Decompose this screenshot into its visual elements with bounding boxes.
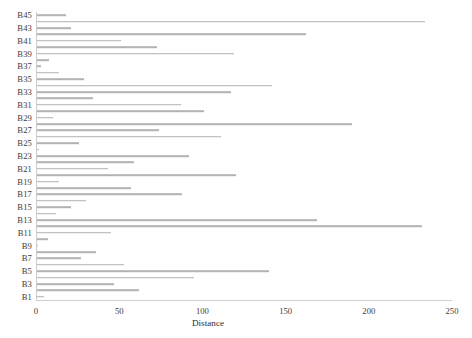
x-tick-label-0: 0 — [34, 306, 38, 316]
y-tick-label-b13: B13 — [17, 215, 32, 225]
bar-b17 — [36, 194, 182, 196]
bar-b13 — [36, 219, 317, 221]
y-tick-label-b9: B9 — [22, 241, 32, 251]
bar-b19 — [36, 181, 59, 183]
bar-b27 — [36, 130, 159, 132]
bar-b10 — [36, 238, 48, 240]
y-tick-label-b17: B17 — [17, 189, 32, 199]
x-tick-label-50: 50 — [115, 306, 124, 316]
bar-b23 — [36, 155, 189, 157]
y-tick-label-b25: B25 — [17, 138, 32, 148]
bar-b36 — [36, 72, 59, 74]
bar-b44 — [36, 21, 425, 23]
bar-b3 — [36, 283, 114, 285]
bar-b28 — [36, 123, 352, 125]
x-tick-label-150: 150 — [279, 306, 292, 316]
y-axis-line — [36, 12, 37, 301]
y-tick-label-b33: B33 — [17, 87, 32, 97]
bar-b25 — [36, 142, 79, 144]
bar-b14 — [36, 213, 56, 215]
plot-area — [36, 12, 452, 300]
bar-b4 — [36, 277, 194, 279]
distance-bar-chart: B45B43B41B39B37B35B33B31B29B27B25B23B21B… — [0, 0, 472, 338]
y-tick-label-b31: B31 — [17, 100, 32, 110]
x-axis-title: Distance — [0, 318, 472, 328]
bar-b42 — [36, 34, 306, 36]
bar-b31 — [36, 104, 181, 106]
bar-b12 — [36, 226, 422, 228]
bar-b43 — [36, 27, 71, 29]
y-tick-label-b43: B43 — [17, 23, 32, 33]
bar-b34 — [36, 85, 272, 87]
bar-b26 — [36, 136, 221, 138]
bar-b2 — [36, 290, 139, 292]
bar-b40 — [36, 46, 157, 48]
y-tick-label-b41: B41 — [17, 36, 32, 46]
bar-b6 — [36, 264, 124, 266]
y-tick-label-b19: B19 — [17, 177, 32, 187]
x-axis-title-text: Distance — [192, 318, 224, 328]
bar-b39 — [36, 53, 234, 55]
bar-b35 — [36, 78, 84, 80]
y-tick-label-b23: B23 — [17, 151, 32, 161]
y-axis-tick-labels: B45B43B41B39B37B35B33B31B29B27B25B23B21B… — [0, 12, 32, 300]
y-tick-label-b37: B37 — [17, 61, 32, 71]
bar-b1 — [36, 296, 44, 298]
y-tick-label-b5: B5 — [22, 266, 32, 276]
x-tick-label-200: 200 — [362, 306, 375, 316]
y-tick-label-b15: B15 — [17, 202, 32, 212]
bar-b16 — [36, 200, 86, 202]
bar-b45 — [36, 14, 66, 16]
bar-b20 — [36, 174, 236, 176]
bar-b18 — [36, 187, 131, 189]
bar-b11 — [36, 232, 111, 234]
y-tick-label-b29: B29 — [17, 113, 32, 123]
bar-b32 — [36, 98, 93, 100]
y-tick-label-b39: B39 — [17, 49, 32, 59]
y-tick-label-b3: B3 — [22, 279, 32, 289]
bar-b15 — [36, 206, 71, 208]
x-tick-label-100: 100 — [196, 306, 209, 316]
bar-b29 — [36, 117, 53, 119]
bar-b5 — [36, 270, 269, 272]
y-tick-label-b11: B11 — [18, 228, 32, 238]
bar-b21 — [36, 168, 108, 170]
y-tick-label-b1: B1 — [22, 292, 32, 302]
y-tick-label-b21: B21 — [17, 164, 32, 174]
x-axis-line — [36, 300, 452, 301]
y-tick-label-b7: B7 — [22, 253, 32, 263]
bar-b30 — [36, 110, 204, 112]
bar-b22 — [36, 162, 134, 164]
bar-b41 — [36, 40, 121, 42]
bar-b38 — [36, 59, 49, 61]
y-tick-label-b27: B27 — [17, 125, 32, 135]
y-tick-label-b45: B45 — [17, 10, 32, 20]
bar-b8 — [36, 251, 96, 253]
y-tick-label-b35: B35 — [17, 74, 32, 84]
bar-b33 — [36, 91, 231, 93]
bar-b7 — [36, 258, 81, 260]
x-tick-label-250: 250 — [446, 306, 459, 316]
